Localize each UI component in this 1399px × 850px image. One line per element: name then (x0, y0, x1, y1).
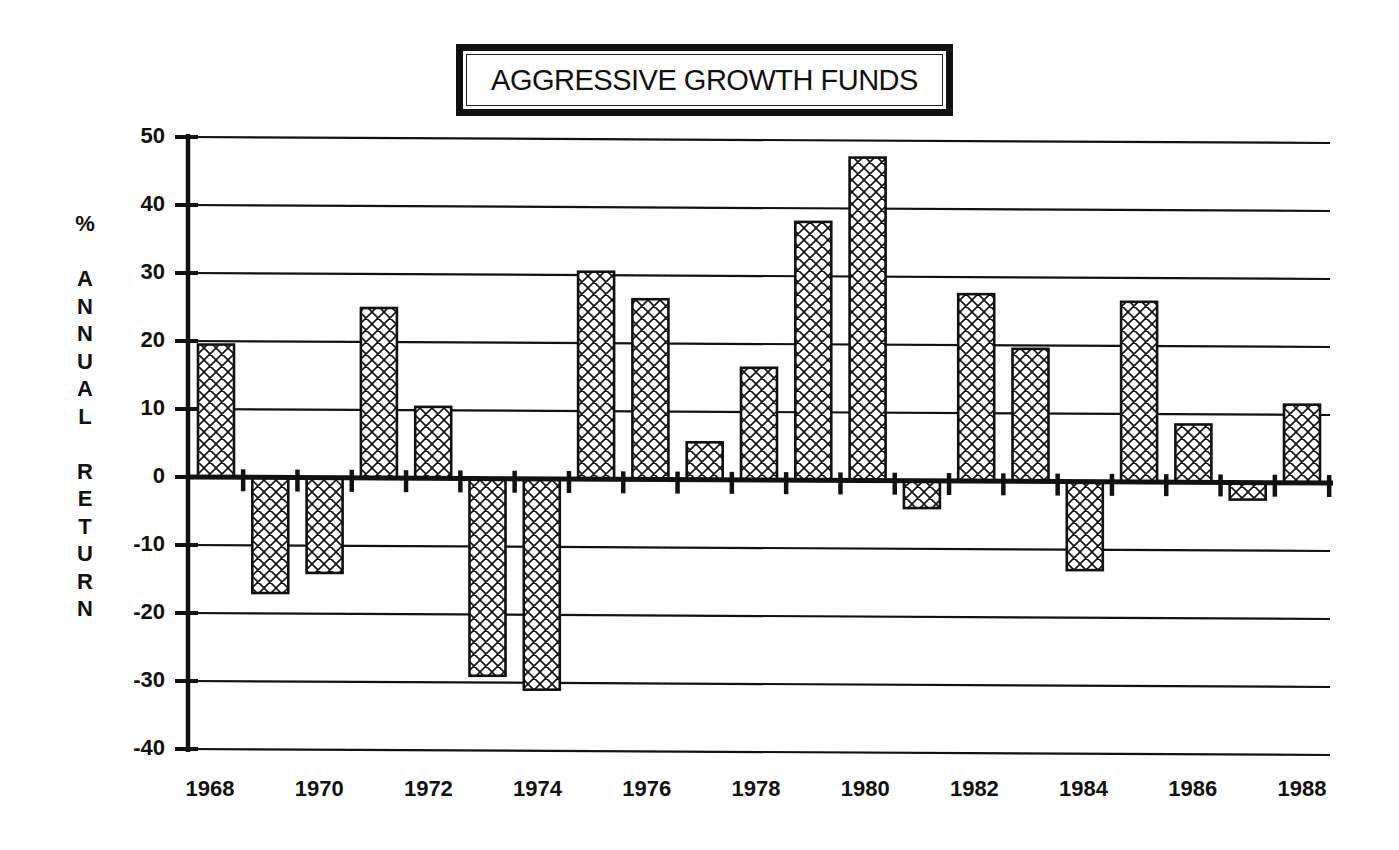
y-axis-label-letter (70, 238, 100, 266)
chart-plot-area (0, 0, 1399, 850)
y-axis-label: % ANNUAL RETURN (70, 210, 100, 623)
bars (198, 158, 1320, 690)
gridline-40 (188, 205, 1330, 211)
x-tick-label: 1972 (388, 776, 468, 802)
gridline--30 (188, 681, 1330, 687)
x-tick-label: 1968 (170, 776, 250, 802)
y-axis-label-letter (70, 430, 100, 458)
x-tick-label: 1980 (825, 776, 905, 802)
y-axis-label-letter: U (70, 348, 100, 376)
y-axis-label-letter: R (70, 458, 100, 486)
y-axis-label-letter: N (70, 293, 100, 321)
x-axis-zero-line (188, 477, 1333, 483)
bar-1988 (1284, 405, 1320, 483)
bar-1969 (252, 477, 288, 593)
bar-1973 (470, 479, 506, 676)
y-axis-label-letter: N (70, 320, 100, 348)
bar-1983 (1013, 349, 1049, 482)
y-axis-label-letter: U (70, 540, 100, 568)
x-tick-label: 1982 (934, 776, 1014, 802)
x-tick-label: 1978 (716, 776, 796, 802)
bar-1976 (632, 299, 668, 479)
bar-1975 (578, 272, 614, 479)
y-axis-label-letter: E (70, 485, 100, 513)
y-tick-label: 50 (105, 123, 165, 149)
y-tick-label: 40 (105, 191, 165, 217)
bar-1972 (415, 407, 451, 478)
chart-title-box: AGGRESSIVE GROWTH FUNDS (456, 44, 953, 116)
chart-title-inner-frame: AGGRESSIVE GROWTH FUNDS (466, 54, 943, 106)
x-tick-label: 1988 (1262, 776, 1342, 802)
y-axis-label-letter: L (70, 403, 100, 431)
bar-1986 (1175, 424, 1211, 482)
y-axis-label-letter: A (70, 265, 100, 293)
bar-1979 (795, 222, 831, 480)
x-tick-label: 1984 (1044, 776, 1124, 802)
y-tick-label: 30 (105, 259, 165, 285)
bar-1968 (198, 345, 234, 478)
gridline-30 (188, 273, 1330, 279)
x-tick-label: 1970 (279, 776, 359, 802)
y-axis-label-letter: T (70, 513, 100, 541)
bar-1974 (524, 479, 560, 690)
gridline--10 (188, 545, 1330, 551)
bar-1985 (1121, 302, 1157, 482)
y-tick-label: -10 (105, 531, 165, 557)
gridline-50 (188, 137, 1330, 143)
y-axis-label-letter: N (70, 595, 100, 623)
gridline--20 (188, 613, 1330, 619)
y-tick-label: -30 (105, 667, 165, 693)
y-tick-label: 20 (105, 327, 165, 353)
gridline--40 (188, 749, 1330, 755)
y-tick-label: 0 (105, 463, 165, 489)
gridline-20 (188, 341, 1330, 347)
bar-1984 (1067, 482, 1103, 570)
x-tick-label: 1974 (498, 776, 578, 802)
bar-1977 (687, 442, 723, 479)
bar-1978 (741, 368, 777, 480)
bar-1982 (958, 294, 994, 481)
x-tick-label: 1976 (607, 776, 687, 802)
y-tick-label: -20 (105, 599, 165, 625)
y-tick-label: 10 (105, 395, 165, 421)
bar-1971 (361, 308, 397, 478)
y-axis-label-letter: R (70, 568, 100, 596)
bar-1970 (307, 478, 343, 573)
y-axis-label-letter: % (70, 210, 100, 238)
bar-1980 (850, 158, 886, 481)
y-tick-label: -40 (105, 735, 165, 761)
y-axis-label-letter: A (70, 375, 100, 403)
chart-title: AGGRESSIVE GROWTH FUNDS (491, 64, 918, 97)
x-tick-label: 1986 (1153, 776, 1233, 802)
bar-1981 (904, 481, 940, 508)
